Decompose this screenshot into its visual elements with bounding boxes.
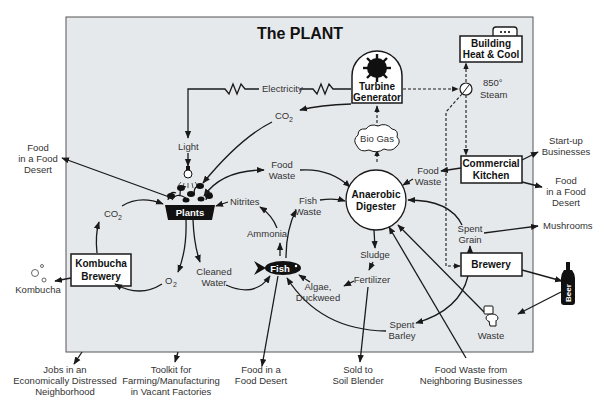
svg-text:Kombucha: Kombucha: [75, 258, 127, 269]
svg-text:Water: Water: [202, 277, 227, 288]
output-soil-blender: Sold to: [343, 364, 373, 375]
o2-label: O: [165, 275, 172, 286]
svg-text:Desert: Desert: [24, 164, 52, 175]
svg-text:2: 2: [289, 116, 293, 123]
algae-duckweed-label: Algae,: [305, 281, 332, 292]
svg-text:Generator: Generator: [353, 92, 401, 103]
food-waste-label: Food: [417, 165, 439, 176]
diagram-title: The PLANT: [257, 25, 343, 42]
svg-text:in a Food: in a Food: [18, 153, 58, 164]
spent-barley-label: Spent: [390, 319, 415, 330]
svg-text:in Vacant Factories: in Vacant Factories: [131, 386, 212, 397]
svg-text:in a Food: in a Food: [546, 186, 586, 197]
svg-text:Farming/Manufacturing: Farming/Manufacturing: [122, 375, 220, 386]
output-startup-businesses: Start-up: [549, 135, 583, 146]
fertilizer-label: Fertilizer: [354, 274, 390, 285]
svg-text:Fish: Fish: [270, 263, 290, 274]
svg-text:Neighborhood: Neighborhood: [35, 386, 95, 397]
nitrites-label: Nitrites: [230, 196, 260, 207]
svg-text:Waste: Waste: [295, 206, 322, 217]
svg-text:Bio Gas: Bio Gas: [360, 133, 394, 144]
commercial-kitchen-node: Commercial Kitchen: [461, 156, 522, 183]
anaerobic-digester-node: Anaerobic Digester: [346, 170, 406, 230]
kombucha-brewery-node: Kombucha Brewery: [71, 254, 131, 286]
output-jobs: Jobs in an: [43, 364, 86, 375]
output-food-waste-neighbors: Food Waste from: [435, 364, 508, 375]
svg-text:Barley: Barley: [389, 330, 416, 341]
output-kombucha: Kombucha: [15, 284, 61, 295]
svg-text:Building: Building: [471, 38, 511, 49]
turbine-generator-node: Turbine Generator: [352, 51, 402, 103]
output-food-desert-bottom: Food in a: [241, 364, 281, 375]
co2-label: CO: [104, 208, 118, 219]
svg-text:Economically Distressed: Economically Distressed: [13, 375, 116, 386]
svg-text:Waste: Waste: [269, 170, 296, 181]
svg-text:Desert: Desert: [552, 197, 580, 208]
beer-bottle-icon: Beer: [561, 262, 575, 305]
turbine-icon: [363, 54, 391, 82]
svg-text:Grain: Grain: [458, 234, 481, 245]
cleaned-water-label: Cleaned: [196, 266, 231, 277]
waste-label: Waste: [478, 330, 505, 341]
output-food-desert-left: Food: [27, 142, 49, 153]
steam-label: Steam: [480, 89, 508, 100]
svg-text:Brewery: Brewery: [81, 271, 121, 282]
svg-text:Beer: Beer: [564, 284, 573, 302]
electricity-label: Electricity: [262, 83, 303, 94]
steam-gauge-icon: [460, 83, 472, 95]
co2-label: CO: [275, 110, 289, 121]
output-toolkit: Toolkit for: [151, 364, 192, 375]
svg-text:Digester: Digester: [356, 201, 396, 212]
svg-text:Kitchen: Kitchen: [473, 170, 510, 181]
svg-text:Plants: Plants: [176, 207, 205, 218]
output-food-desert-right: Food: [555, 175, 577, 186]
bubbles-icon: [32, 265, 47, 283]
svg-text:2: 2: [173, 281, 177, 288]
food-waste-label: Food: [271, 159, 293, 170]
svg-text:Anaerobic: Anaerobic: [352, 189, 401, 200]
steam-label: 850°: [483, 77, 503, 88]
svg-text:2: 2: [118, 214, 122, 221]
svg-text:Businesses: Businesses: [542, 146, 591, 157]
sludge-label: Sludge: [360, 249, 390, 260]
svg-text:Brewery: Brewery: [471, 259, 511, 270]
svg-text:Heat & Cool: Heat & Cool: [463, 49, 520, 60]
fish-waste-label: Fish: [299, 195, 317, 206]
svg-text:Commercial: Commercial: [462, 158, 519, 169]
svg-text:Food Desert: Food Desert: [235, 375, 288, 386]
brewery-node: Brewery: [461, 253, 522, 276]
svg-text:Turbine: Turbine: [359, 81, 395, 92]
light-label: Light: [178, 141, 199, 152]
output-mushrooms: Mushrooms: [543, 220, 593, 231]
svg-text:Neighboring Businesses: Neighboring Businesses: [420, 375, 523, 386]
svg-text:Waste: Waste: [415, 176, 442, 187]
svg-text:Duckweed: Duckweed: [296, 292, 340, 303]
plant-diagram: The PLANT Turbine Generator Building Hea…: [0, 0, 605, 412]
ammonia-label: Ammonia: [247, 228, 288, 239]
svg-text:Soil Blender: Soil Blender: [332, 375, 383, 386]
